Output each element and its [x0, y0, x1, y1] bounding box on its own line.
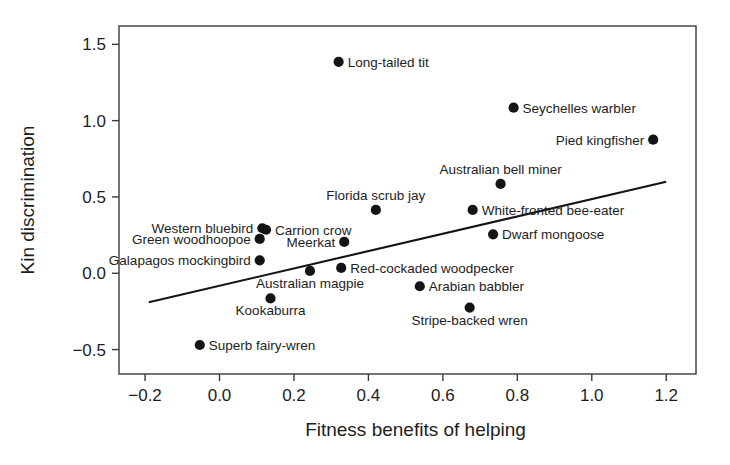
scatter-plot-figure: −0.20.00.20.40.60.81.01.21.51.00.50.0−0.… — [0, 0, 730, 465]
x-axis-title: Fitness benefits of helping — [305, 419, 526, 440]
data-point-label: Australian bell miner — [439, 162, 562, 177]
x-axis-tick-label: 1.0 — [580, 386, 604, 405]
x-axis-tick-label: 1.2 — [654, 386, 678, 405]
data-point-label: Green woodhoopoe — [132, 232, 251, 247]
x-axis-tick-label: 0.0 — [208, 386, 232, 405]
x-axis-tick-label: 0.6 — [431, 386, 455, 405]
data-point-label: Meerkat — [286, 235, 335, 250]
data-point — [468, 205, 478, 215]
data-point — [334, 57, 344, 67]
data-point-label: Galapagos mockingbird — [109, 253, 251, 268]
data-point — [336, 263, 346, 273]
data-point-label: Arabian babbler — [429, 279, 525, 294]
y-axis-tick-label: −0.5 — [72, 341, 106, 360]
x-axis-tick-label: 0.8 — [505, 386, 529, 405]
data-point — [495, 179, 505, 189]
data-point — [488, 229, 498, 239]
data-point — [261, 225, 271, 235]
data-point — [305, 266, 315, 276]
data-point-label: Kookaburra — [236, 303, 306, 318]
data-point-label: Dwarf mongoose — [502, 227, 604, 242]
x-axis-tick-label: 0.4 — [357, 386, 381, 405]
y-axis-tick-label: 1.0 — [82, 112, 106, 131]
y-axis-tick-label: 1.5 — [82, 35, 106, 54]
data-point — [255, 255, 265, 265]
x-axis-tick-label: −0.2 — [128, 386, 162, 405]
data-point — [339, 237, 349, 247]
data-point-label: White-fronted bee-eater — [482, 203, 625, 218]
data-point-label: Red-cockaded woodpecker — [350, 261, 514, 276]
data-point-label: Seychelles warbler — [523, 101, 637, 116]
data-point — [465, 303, 475, 313]
data-point — [195, 340, 205, 350]
data-point — [265, 293, 275, 303]
data-point — [508, 103, 518, 113]
data-point-label: Stripe-backed wren — [412, 313, 528, 328]
data-point-label: Superb fairy-wren — [209, 338, 316, 353]
data-point-label: Australian magpie — [256, 276, 364, 291]
data-point — [371, 205, 381, 215]
data-point-label: Pied kingfisher — [556, 133, 645, 148]
x-axis-tick-label: 0.2 — [282, 386, 306, 405]
kin-discrimination-scatter-chart: −0.20.00.20.40.60.81.01.21.51.00.50.0−0.… — [0, 0, 730, 465]
data-point — [648, 135, 658, 145]
data-point — [415, 281, 425, 291]
data-point-label: Florida scrub jay — [326, 188, 425, 203]
y-axis-tick-label: 0.0 — [82, 264, 106, 283]
y-axis-title: Kin discrimination — [17, 126, 38, 275]
data-point — [255, 234, 265, 244]
y-axis-tick-label: 0.5 — [82, 188, 106, 207]
data-point-label: Long-tailed tit — [348, 55, 429, 70]
